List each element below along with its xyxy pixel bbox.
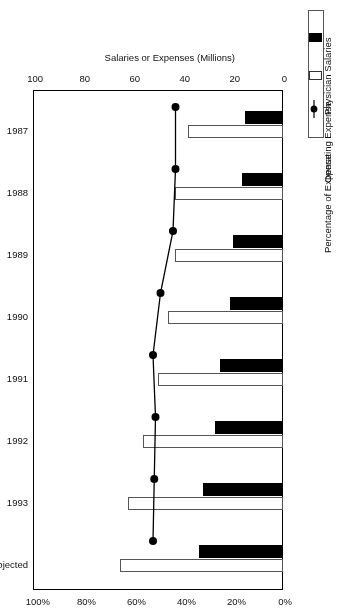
- percentage-of-expense-line: [33, 90, 283, 590]
- value-axis-title: Salaries or Expenses (Millions): [105, 52, 235, 63]
- data-point-1992: [152, 413, 160, 421]
- legend-color-black: [309, 33, 322, 42]
- value-tick-100: 100: [27, 73, 43, 84]
- chart-figure: 1987 1988 1989 1990 1991 1992 1993 1994 …: [0, 0, 340, 608]
- data-point-1994: [149, 537, 157, 545]
- category-label-1988: 1988: [7, 187, 28, 198]
- category-label-1991: 1991: [7, 373, 28, 384]
- percent-tick-80: 80%: [77, 596, 96, 607]
- percent-tick-60: 60%: [127, 596, 146, 607]
- category-label-1987: 1987: [7, 125, 28, 136]
- value-tick-40: 40: [179, 73, 190, 84]
- data-point-1993: [150, 475, 158, 483]
- value-tick-20: 20: [229, 73, 240, 84]
- value-tick-0: 0: [282, 73, 287, 84]
- data-point-1988: [172, 165, 180, 173]
- value-tick-80: 80: [79, 73, 90, 84]
- value-tick-60: 60: [129, 73, 140, 84]
- category-label-1994: 1994 Projected: [0, 559, 28, 570]
- percent-tick-20: 20%: [227, 596, 246, 607]
- legend-label-percentage-of-expense: Percentage of Expense: [322, 154, 333, 253]
- data-point-1990: [157, 289, 165, 297]
- percent-tick-0: 0%: [278, 596, 292, 607]
- legend-line-marker: [306, 100, 322, 118]
- legend-swatch-operating-expense: [309, 71, 322, 80]
- data-point-1989: [169, 227, 177, 235]
- data-point-1987: [172, 103, 180, 111]
- category-label-1993: 1993: [7, 497, 28, 508]
- category-label-1989: 1989: [7, 249, 28, 260]
- percent-tick-100: 100%: [26, 596, 50, 607]
- data-point-1991: [149, 351, 157, 359]
- category-label-1992: 1992: [7, 435, 28, 446]
- percent-tick-40: 40%: [177, 596, 196, 607]
- legend-marker-percentage-of-expense: [306, 96, 322, 118]
- category-label-1990: 1990: [7, 311, 28, 322]
- legend-color-white: [309, 71, 322, 80]
- legend-swatch-physician-salaries: [309, 33, 322, 42]
